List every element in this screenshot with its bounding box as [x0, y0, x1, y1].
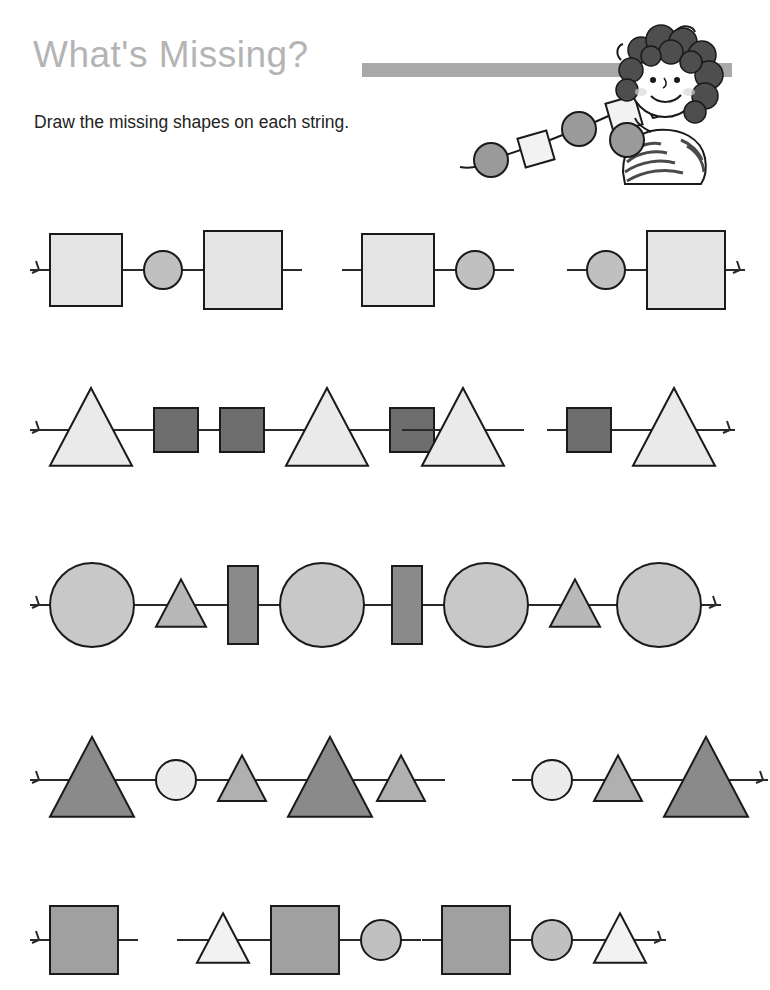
bead-square [220, 408, 264, 452]
worksheet-rows-container [0, 190, 763, 990]
pattern-string-r1-c1[interactable] [28, 190, 304, 350]
bead-triangle [377, 755, 425, 801]
string-knot [32, 771, 39, 783]
bead-square [567, 408, 611, 452]
bead-square [442, 906, 510, 974]
pattern-string-r4-c1[interactable] [28, 700, 394, 860]
bead-triangle [550, 579, 600, 627]
worksheet-row-1 [0, 190, 763, 350]
string-knot [733, 261, 740, 273]
pattern-string-r1-c2[interactable] [340, 190, 516, 350]
bead-square [50, 234, 122, 306]
worksheet-row-2 [0, 350, 763, 510]
pattern-string-r2-c2[interactable] [400, 350, 526, 510]
bead-triangle [422, 388, 504, 466]
bead-circle [532, 920, 572, 960]
bead-circle [144, 251, 182, 289]
bead-circle [156, 760, 196, 800]
pattern-string-r2-c3[interactable] [545, 350, 737, 510]
worksheet-row-4 [0, 700, 763, 860]
string-knot [709, 596, 716, 608]
bead-square [271, 906, 339, 974]
worksheet-row-5 [0, 860, 763, 990]
bead-triangle [50, 737, 134, 817]
pattern-string-r2-c1[interactable] [28, 350, 456, 510]
bead-triangle [218, 755, 266, 801]
bead-circle [617, 563, 701, 647]
bead-triangle [197, 913, 249, 962]
bead-triangle [664, 737, 748, 817]
bead-square [647, 231, 725, 309]
string-knot [32, 596, 39, 608]
bead-triangle [156, 579, 206, 627]
bead-square [50, 906, 118, 974]
pattern-string-r4-c3[interactable] [510, 700, 770, 860]
pattern-string-r3-c3[interactable] [595, 525, 723, 685]
bead-circle [444, 563, 528, 647]
pattern-string-r3-c2[interactable] [370, 525, 622, 685]
bead-circle [456, 251, 494, 289]
string-knot [723, 421, 730, 433]
bead-triangle [594, 913, 646, 962]
string-knot [756, 771, 763, 783]
page-title: What's Missing? [33, 34, 309, 76]
string-knot [32, 931, 39, 943]
bead-square [362, 234, 434, 306]
instruction-text: Draw the missing shapes on each string. [34, 112, 349, 133]
bead-square [154, 408, 198, 452]
bead-square [204, 231, 282, 309]
girl-threading-beads-illustration [455, 22, 755, 187]
pattern-string-r5-c2[interactable] [175, 860, 423, 990]
page-header: What's Missing? Draw the missing shapes … [0, 0, 763, 190]
bead-rect-vertical [392, 566, 422, 644]
string-knot [32, 261, 39, 273]
bead-circle [50, 563, 134, 647]
bead-triangle [594, 755, 642, 801]
bead-triangle [286, 388, 368, 466]
bead-triangle [633, 388, 715, 466]
bead-circle [532, 760, 572, 800]
string-knot [32, 421, 39, 433]
bead-circle [361, 920, 401, 960]
pattern-string-r4-c2[interactable] [355, 700, 447, 860]
bead-rect-vertical [228, 566, 258, 644]
bead-circle [280, 563, 364, 647]
pattern-string-r5-c3[interactable] [420, 860, 668, 990]
pattern-string-r5-c1[interactable] [28, 860, 140, 990]
worksheet-row-3 [0, 525, 763, 685]
bead-circle [587, 251, 625, 289]
pattern-string-r1-c3[interactable] [565, 190, 747, 350]
pattern-string-r3-c1[interactable] [28, 525, 386, 685]
bead-triangle [50, 388, 132, 466]
string-knot [654, 931, 661, 943]
